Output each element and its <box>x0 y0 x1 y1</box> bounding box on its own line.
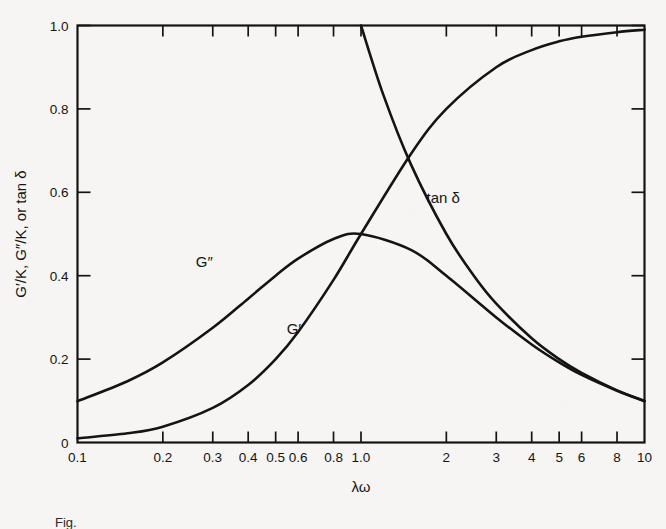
y-axis-ticks-left <box>78 26 91 360</box>
figure-caption: Fig. <box>55 515 77 529</box>
y-tick-label: 0 <box>61 436 69 451</box>
y-tick-label: 0.8 <box>50 102 69 117</box>
x-tick-label: 10 <box>637 450 652 465</box>
x-tick-label: 0.2 <box>153 450 172 465</box>
x-tick-label: 0.3 <box>203 450 222 465</box>
x-tick-label: 0.5 <box>266 450 285 465</box>
curve-tan-delta <box>361 26 645 401</box>
x-tick-label: 5 <box>555 450 563 465</box>
x-tick-label: 0.6 <box>289 450 308 465</box>
x-axis-ticks-bottom <box>163 432 617 443</box>
x-tick-label: 0.1 <box>68 450 87 465</box>
x-tick-label: 4 <box>528 450 536 465</box>
y-axis-tick-labels: 00.20.40.60.81.0 <box>50 19 69 451</box>
x-tick-label: 1.0 <box>352 450 371 465</box>
curve-label: G″ <box>196 253 214 270</box>
y-tick-label: 1.0 <box>50 19 69 34</box>
x-axis-ticks-top <box>163 26 617 37</box>
viscoelastic-moduli-chart: 0.10.20.30.40.50.60.81.023456810 00.20.4… <box>0 0 666 529</box>
x-tick-label: 0.8 <box>324 450 343 465</box>
y-tick-label: 0.2 <box>50 352 69 367</box>
x-tick-label: 6 <box>578 450 586 465</box>
curve-label: tan δ <box>427 189 460 206</box>
curve-g-double-prime <box>78 233 645 401</box>
curve-g-prime <box>78 30 645 439</box>
x-tick-label: 8 <box>613 450 621 465</box>
x-axis-title: λω <box>352 478 371 495</box>
curve-label: G′ <box>287 320 302 337</box>
x-tick-label: 3 <box>493 450 501 465</box>
x-tick-label: 2 <box>443 450 451 465</box>
y-tick-label: 0.4 <box>50 269 69 284</box>
y-tick-label: 0.6 <box>50 185 69 200</box>
y-axis-ticks-right <box>632 26 645 360</box>
x-tick-label: 0.4 <box>239 450 258 465</box>
y-axis-title: G′/K, G″/K, or tan δ <box>12 170 29 297</box>
x-axis-tick-labels: 0.10.20.30.40.50.60.81.023456810 <box>68 450 652 465</box>
figure-container: 0.10.20.30.40.50.60.81.023456810 00.20.4… <box>0 0 666 529</box>
curve-annotations: G″G′tan δ <box>196 189 460 337</box>
